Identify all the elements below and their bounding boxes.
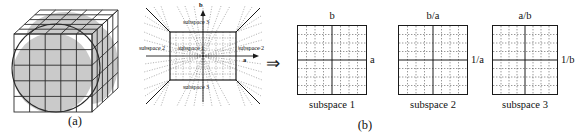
- panel3-grid-svg: [493, 26, 557, 94]
- region-label-right-subspace2: subspace 2: [238, 44, 264, 51]
- figure-root: (a): [0, 0, 579, 140]
- panel1-top-label: b: [297, 10, 367, 21]
- panel1-grid-svg: [298, 26, 366, 94]
- panel3-grid: [492, 25, 558, 95]
- panel2-top-label: b/a: [398, 10, 468, 21]
- region-label-left-subspace2: subspace 2: [139, 44, 165, 51]
- panel1-side-label: a: [370, 54, 375, 65]
- region-label-bottom-subspace3: subspace 3: [183, 83, 209, 90]
- region-label-center-subspace1: subspace 1: [178, 44, 204, 51]
- axis-label-a-middle: a: [243, 56, 246, 63]
- panel3-top-label: a/b: [492, 10, 558, 21]
- panel2-caption: subspace 2: [390, 99, 476, 110]
- cube-svg: [4, 2, 140, 114]
- implies-arrow-icon: ⇒: [266, 55, 280, 72]
- panel3-caption: subspace 3: [482, 99, 568, 110]
- panel2-grid: [398, 25, 468, 95]
- panel3-side-label: 1/b: [561, 54, 574, 65]
- panel2-side-label: 1/a: [471, 54, 484, 65]
- subspace-decomposition-diagram: b a subspace 3 subspace 3 subspace 2 sub…: [142, 4, 264, 108]
- panel1-caption: subspace 1: [289, 99, 375, 110]
- region-label-top-subspace3: subspace 3: [183, 18, 209, 25]
- panel2-grid-svg: [399, 26, 467, 94]
- axis-label-b-middle: b: [199, 1, 203, 8]
- panel1-grid: [297, 25, 367, 95]
- caption-b: (b): [330, 118, 400, 133]
- caption-a: (a): [40, 114, 110, 129]
- cube-diagram: [4, 2, 140, 114]
